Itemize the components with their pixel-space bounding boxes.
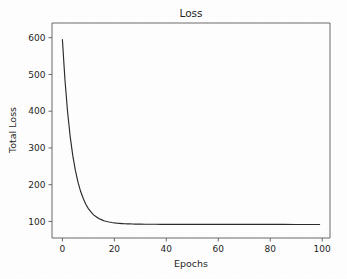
x-tick-label: 100 (314, 244, 331, 254)
chart-canvas: Loss 020406080100 100200300400500600 Epo… (0, 0, 347, 279)
x-tick-label: 20 (109, 244, 121, 254)
x-tick-label: 0 (60, 244, 66, 254)
y-tick-label: 200 (28, 180, 45, 190)
y-tick-label: 300 (28, 143, 45, 153)
loss-chart-figure: Loss 020406080100 100200300400500600 Epo… (0, 0, 347, 279)
y-axis-label: Total Loss (7, 107, 18, 154)
x-tick-label: 40 (161, 244, 173, 254)
y-tick-label: 400 (28, 106, 45, 116)
x-tick-label: 80 (265, 244, 277, 254)
x-tick-label: 60 (213, 244, 225, 254)
chart-title: Loss (179, 7, 202, 19)
y-tick-label: 500 (28, 70, 45, 80)
plot-area-background (52, 23, 330, 238)
y-tick-label: 600 (28, 33, 45, 43)
y-tick-label: 100 (28, 217, 45, 227)
x-axis-label: Epochs (174, 258, 208, 269)
